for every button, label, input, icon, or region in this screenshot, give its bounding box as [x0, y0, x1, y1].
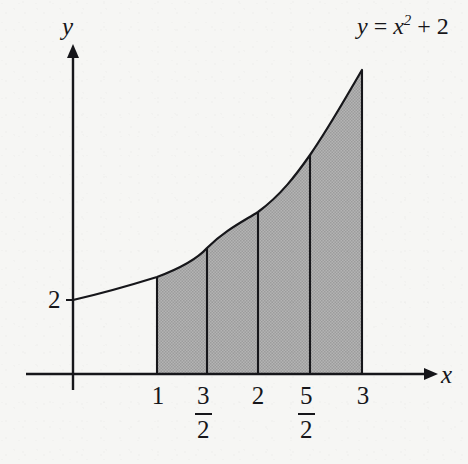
- y-axis-label: y: [62, 14, 73, 39]
- x-tick-label-2: 2: [250, 383, 266, 408]
- x-axis-label: x: [441, 362, 452, 387]
- fraction-bar: [195, 413, 212, 415]
- shaded-region: [150, 55, 370, 380]
- x-tick-label-1: 1: [150, 383, 166, 408]
- x-tick-label-5-2: 5 2: [298, 383, 323, 443]
- fraction-five-halves: 5 2: [298, 383, 315, 443]
- equation-equals: =: [368, 13, 394, 39]
- equation-base: x: [393, 13, 404, 39]
- fraction-three-halves: 3 2: [195, 383, 212, 443]
- fraction-denominator: 2: [195, 417, 212, 444]
- equation-tail: + 2: [411, 13, 449, 39]
- curve-equation-label: y = x2 + 2: [357, 14, 449, 38]
- fraction-denominator: 2: [298, 417, 315, 444]
- equation-lhs: y: [357, 13, 368, 39]
- fraction-numerator: 3: [195, 383, 212, 410]
- calculus-figure: y x y = x2 + 2 2 1 3 2 2 5 2 3: [0, 0, 468, 464]
- fraction-numerator: 5: [298, 383, 315, 410]
- x-tick-label-3-2: 3 2: [195, 383, 220, 443]
- y-axis: [67, 44, 79, 390]
- y-intercept-label: 2: [48, 287, 61, 312]
- x-tick-label-3: 3: [355, 383, 371, 408]
- plot-canvas: [0, 0, 468, 464]
- fraction-bar: [298, 413, 315, 415]
